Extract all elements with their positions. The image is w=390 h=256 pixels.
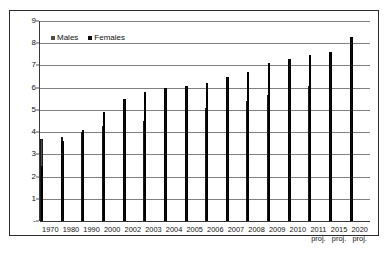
x-axis-tick-sublabel: proj. [331, 234, 347, 243]
x-axis-tick-label: 2020proj. [351, 225, 367, 244]
bar-females-2000 [103, 112, 105, 221]
x-axis-tick-label: 2005 [186, 225, 202, 234]
bar-females-2008 [247, 72, 249, 221]
x-axis-tick-label: 2015proj. [331, 225, 347, 244]
bar-group: 2015proj. [329, 21, 350, 221]
bar-females-1990 [82, 130, 84, 221]
x-axis-tick-label: 2006 [207, 225, 223, 234]
x-axis-tick-label: 2007 [228, 225, 244, 234]
bar-group: 2006 [205, 21, 226, 221]
x-axis-tick-sublabel: proj. [310, 234, 326, 243]
chart-legend: MalesFemales [48, 33, 128, 43]
x-axis-tick-label: 1980 [63, 225, 79, 234]
bar-group: 2011proj. [308, 21, 329, 221]
y-axis-tick-mark [36, 198, 39, 199]
males-swatch [51, 36, 55, 40]
x-axis-tick-sublabel: proj. [351, 234, 367, 243]
y-axis-tick-mark [36, 21, 39, 22]
bar-females-2010 [288, 59, 290, 221]
females-swatch [88, 36, 92, 40]
chart-frame: -123456789 19701980199020002002200320042… [9, 10, 379, 236]
x-axis-tick-label: 2008 [248, 225, 264, 234]
bar-group: 2003 [143, 21, 164, 221]
x-axis-tick-label: 2010 [290, 225, 306, 234]
legend-item-males: Males [51, 34, 78, 42]
x-axis-tick-label: 2009 [269, 225, 285, 234]
bar-females-2011 [309, 55, 311, 221]
x-axis-tick-label: 2004 [166, 225, 182, 234]
bar-females-2002 [123, 99, 125, 221]
bar-group: 1980 [61, 21, 82, 221]
bar-females-2015 [329, 52, 331, 221]
bar-group: 2020proj. [349, 21, 370, 221]
x-axis-tick-label: 1990 [83, 225, 99, 234]
bar-group: 1970 [40, 21, 61, 221]
bar-group: 2007 [226, 21, 247, 221]
bar-group: 2009 [267, 21, 288, 221]
bar-group: 2000 [102, 21, 123, 221]
bar-females-2006 [206, 83, 208, 221]
bar-group: 2008 [246, 21, 267, 221]
bar-females-2003 [144, 92, 146, 221]
bar-group: 1990 [81, 21, 102, 221]
y-axis-tick-mark [36, 221, 39, 222]
y-axis-tick-mark [36, 132, 39, 133]
plot-area: -123456789 19701980199020002002200320042… [40, 21, 370, 221]
x-axis-tick-label: 2000 [104, 225, 120, 234]
bar-females-1970 [41, 166, 43, 221]
x-axis-tick-label: 2003 [145, 225, 161, 234]
bar-females-2009 [268, 63, 270, 221]
x-axis-tick-label: 2011proj. [310, 225, 326, 244]
legend-label: Females [94, 34, 125, 42]
y-axis-tick-mark [36, 109, 39, 110]
y-axis-tick-mark [36, 87, 39, 88]
bar-females-2004 [164, 88, 166, 221]
bar-group: 2004 [164, 21, 185, 221]
y-axis-tick-mark [36, 154, 39, 155]
axis-baseline [40, 221, 370, 222]
bar-group: 2005 [184, 21, 205, 221]
y-axis-tick-mark [36, 176, 39, 177]
y-axis-tick-mark [36, 43, 39, 44]
bar-females-1980 [61, 141, 63, 221]
bar-group: 2010 [288, 21, 309, 221]
x-axis-tick-label: 1970 [42, 225, 58, 234]
bar-females-2007 [226, 77, 228, 221]
bar-females-2005 [185, 86, 187, 221]
y-axis-tick-mark [36, 65, 39, 66]
bar-females-2020 [350, 37, 352, 221]
legend-item-females: Females [88, 34, 125, 42]
bar-series-layer: 1970198019902000200220032004200520062007… [40, 21, 370, 221]
legend-label: Males [57, 34, 78, 42]
x-axis-tick-label: 2002 [125, 225, 141, 234]
bar-group: 2002 [123, 21, 144, 221]
